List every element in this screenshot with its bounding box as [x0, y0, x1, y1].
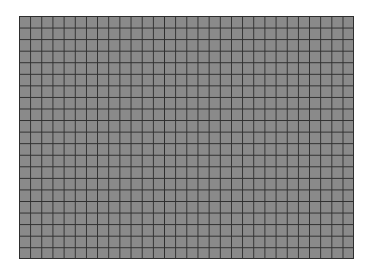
gray-grid-panel	[19, 16, 354, 259]
